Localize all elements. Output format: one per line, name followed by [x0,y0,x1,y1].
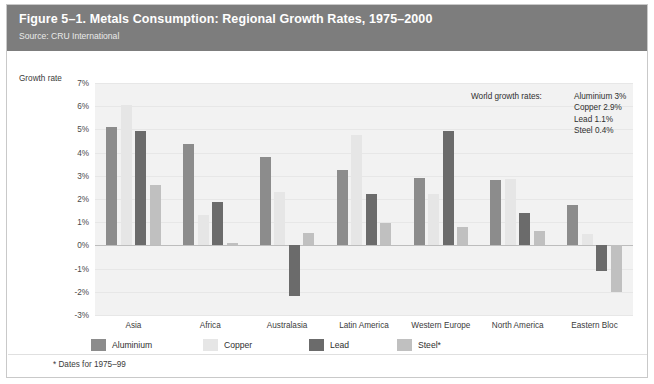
x-axis-category-label: North America [479,321,556,330]
bar [135,131,146,246]
x-axis-category-label: Latin America [326,321,403,330]
bar [414,178,425,245]
bar [289,245,300,296]
bar [274,192,285,245]
bar-group [106,83,161,315]
figure-source: Source: CRU International [19,30,647,43]
bar-group [260,83,315,315]
annotation-line: Steel 0.4% [574,125,626,136]
y-axis-tick-label: 4% [43,148,89,157]
gridline [95,315,633,316]
y-axis-tick-label: -2% [43,287,89,296]
bar [150,185,161,245]
y-axis-tick-label: 5% [43,125,89,134]
annotation-line: Lead 1.1% [574,114,626,125]
annotation-values: Aluminium 3%Copper 2.9%Lead 1.1%Steel 0.… [574,91,626,137]
bar [351,135,362,245]
bar [428,194,439,245]
bar [366,194,377,245]
x-axis-category-label: Africa [172,321,249,330]
y-axis-tick-label: -3% [43,311,89,320]
figure-header: Figure 5–1. Metals Consumption: Regional… [7,5,647,51]
legend-label: Lead [330,340,349,350]
y-axis-tick-label: 6% [43,102,89,111]
legend-swatch [203,339,218,351]
bar [582,234,593,246]
chart-area: Growth rate 7%6%5%4%3%2%1%0%-1%-2%-3% As… [19,57,637,373]
legend-item: Copper [203,339,252,351]
plot-area [95,83,633,315]
bar [212,202,223,245]
y-axis-tick-label: 2% [43,195,89,204]
legend-swatch [309,339,324,351]
bar [534,231,545,245]
bar [121,105,132,245]
bar [443,131,454,246]
y-axis-ticks: 7%6%5%4%3%2%1%0%-1%-2%-3% [19,83,89,315]
bar-group [337,83,392,315]
bar-group [414,83,469,315]
annotation-line: Aluminium 3% [574,91,626,102]
footnote-divider [8,354,648,355]
bar [567,205,578,246]
annotation-label: World growth rates: [471,91,542,102]
legend-label: Copper [224,340,252,350]
bar [611,245,622,291]
x-axis-category-label: Western Europe [402,321,479,330]
legend-swatch [91,339,106,351]
bar-group [490,83,545,315]
legend-label: Steel* [418,340,441,350]
legend-item: Aluminium [91,339,152,351]
y-axis-tick-label: 7% [43,79,89,88]
x-axis-category-label: Eastern Bloc [556,321,633,330]
bar [505,179,516,245]
figure-container: Figure 5–1. Metals Consumption: Regional… [6,4,648,378]
bar [596,245,607,271]
legend-label: Aluminium [112,340,152,350]
x-axis-category-label: Asia [95,321,172,330]
figure-title: Figure 5–1. Metals Consumption: Regional… [19,11,647,27]
y-axis-tick-label: -1% [43,264,89,273]
legend-item: Steel* [397,339,441,351]
x-axis-category-label: Australasia [249,321,326,330]
bar [490,180,501,245]
legend-swatch [397,339,412,351]
y-axis-tick-label: 0% [43,241,89,250]
bar [303,233,314,246]
bar [106,127,117,245]
bar [337,170,348,245]
legend-item: Lead [309,339,349,351]
annotation-line: Copper 2.9% [574,102,626,113]
figure-footnote: * Dates for 1975–99 [53,360,126,369]
bar [227,243,238,245]
bar [519,213,530,245]
bar [380,223,391,245]
y-axis-tick-label: 1% [43,218,89,227]
bar [198,215,209,245]
bar [457,227,468,246]
bar-group [183,83,238,315]
bar [260,157,271,245]
bar [183,144,194,245]
y-axis-tick-label: 3% [43,171,89,180]
